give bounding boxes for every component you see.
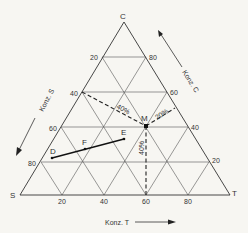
konz-t-axis: Konz. T: [105, 219, 176, 226]
arrow-right-icon: [168, 220, 176, 225]
tick-right-20: 20: [212, 157, 220, 164]
point-m-marker: [144, 124, 148, 128]
grid-lines: [41, 57, 209, 195]
point-f-marker: [84, 148, 87, 151]
vertex-c-label: C: [120, 12, 126, 21]
tick-right-80: 80: [149, 54, 157, 61]
point-f-label: F: [82, 138, 87, 147]
konz-c-axis: Konz. C: [158, 30, 200, 94]
point-e-label: E: [121, 128, 126, 137]
point-d-marker: [51, 157, 54, 160]
point-d-label: D: [50, 147, 56, 156]
point-e-marker: [123, 138, 126, 141]
tick-bottom-40: 40: [100, 198, 108, 205]
tick-bottom-20: 20: [58, 198, 66, 205]
tick-bottom-80: 80: [184, 198, 192, 205]
ternary-diagram: C S T 20 40 60 80 20 40 60 80 80 60 40 2…: [0, 0, 248, 233]
tick-right-40: 40: [191, 124, 199, 131]
vertex-s-label: S: [10, 191, 15, 200]
arrow-down-left-icon: [16, 147, 22, 156]
vertex-t-label: T: [232, 189, 237, 198]
tick-left-40: 40: [70, 90, 78, 97]
mixing-line-de: D F E: [50, 128, 126, 159]
tick-left-60: 60: [49, 125, 57, 132]
konz-c-label: Konz. C: [181, 69, 200, 94]
point-m-label: M: [141, 114, 148, 123]
konz-t-label: Konz. T: [105, 219, 130, 226]
tick-left-80: 80: [28, 160, 36, 167]
t-percent-annotation: 40%: [138, 141, 145, 155]
tick-bottom-60: 60: [142, 198, 150, 205]
konz-s-label: Konz. S: [38, 87, 56, 112]
tick-left-20: 20: [90, 54, 98, 61]
tick-right-60: 60: [170, 89, 178, 96]
point-m-construction: M 40% 20% 40%: [82, 92, 175, 195]
